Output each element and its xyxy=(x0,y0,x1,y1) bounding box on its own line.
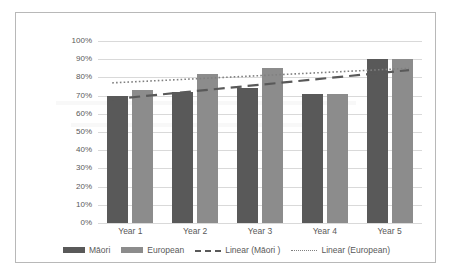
x-axis-tick-label: Year 1 xyxy=(118,226,142,236)
bar xyxy=(327,94,348,223)
legend-swatch-icon xyxy=(291,247,317,253)
bar-group xyxy=(292,41,357,223)
bar-group xyxy=(357,41,422,223)
y-axis-tick-label: 80% xyxy=(76,73,92,81)
legend-label: European xyxy=(147,245,184,255)
legend-label: Linear (European) xyxy=(321,245,390,255)
y-axis-tick-label: 30% xyxy=(76,164,92,172)
bar xyxy=(302,94,323,223)
bar xyxy=(262,68,283,223)
x-axis-tick-label: Year 2 xyxy=(183,226,207,236)
legend-item[interactable]: Linear (Māori ) xyxy=(195,245,280,255)
legend-item[interactable]: European xyxy=(121,245,184,255)
x-axis-tick-label: Year 4 xyxy=(313,226,337,236)
y-axis-tick-label: 0% xyxy=(80,219,92,227)
legend-item[interactable]: Māori xyxy=(63,245,110,255)
bar xyxy=(197,74,218,223)
legend-swatch-icon xyxy=(63,247,85,253)
legend-swatch-icon xyxy=(121,247,143,253)
x-axis-labels: Year 1Year 2Year 3Year 4Year 5 xyxy=(98,226,422,242)
y-axis-tick-label: 70% xyxy=(76,92,92,100)
y-axis-tick-label: 60% xyxy=(76,110,92,118)
legend-item[interactable]: Linear (European) xyxy=(291,245,390,255)
bar xyxy=(172,92,193,223)
y-axis-tick-label: 50% xyxy=(76,128,92,136)
bar xyxy=(237,88,258,223)
y-axis-tick-label: 20% xyxy=(76,183,92,191)
bar xyxy=(367,59,388,223)
legend-label: Linear (Māori ) xyxy=(225,245,280,255)
chart-legend: MāoriEuropeanLinear (Māori )Linear (Euro… xyxy=(16,245,437,255)
bars-layer xyxy=(98,41,422,223)
x-axis-tick-label: Year 5 xyxy=(377,226,401,236)
bar-group xyxy=(228,41,293,223)
legend-label: Māori xyxy=(89,245,110,255)
y-axis-tick-label: 90% xyxy=(76,55,92,63)
y-axis-tick-label: 40% xyxy=(76,146,92,154)
bar xyxy=(132,90,153,223)
x-axis-tick-label: Year 3 xyxy=(248,226,272,236)
chart-frame: 0%10%20%30%40%50%60%70%80%90%100% Year 1… xyxy=(15,12,436,263)
bar xyxy=(392,59,413,223)
y-axis-tick-label: 100% xyxy=(72,37,92,45)
plot-area: 0%10%20%30%40%50%60%70%80%90%100% xyxy=(98,41,422,223)
gridline: 0% xyxy=(98,223,422,224)
y-axis-tick-label: 10% xyxy=(76,201,92,209)
legend-swatch-icon xyxy=(195,247,221,253)
bar-group xyxy=(98,41,163,223)
bar xyxy=(107,96,128,223)
bar-group xyxy=(163,41,228,223)
